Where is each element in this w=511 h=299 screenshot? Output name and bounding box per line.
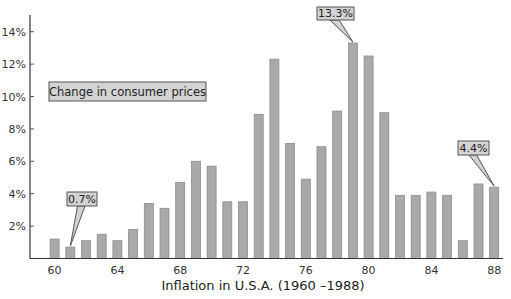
bar-1982 [396,195,405,258]
bar-1978 [333,111,342,258]
x-axis: 6064687276808488 [30,259,503,278]
bar-1986 [458,241,467,259]
x-tick-label: 68 [173,264,187,277]
bar-1965 [129,229,138,258]
bar-1964 [113,241,122,259]
bar-1988 [490,187,499,258]
callout-pointer [330,20,353,42]
bar-1967 [160,208,169,258]
x-axis-title: Inflation in U.S.A. (1960 –1988) [161,278,364,293]
x-tick-label: 76 [299,264,313,277]
bar-1975 [286,143,295,258]
bar-1969 [191,161,200,258]
bar-1968 [176,182,185,258]
legend-label: Change in consumer prices [49,85,206,99]
callout-pointer [469,155,494,186]
y-tick-label: 14% [2,26,26,39]
y-tick-label: 10% [2,91,26,104]
x-tick-label: 72 [236,264,250,277]
bar-1960 [50,239,59,258]
bar-1977 [317,147,326,259]
bar-1984 [427,192,436,258]
bar-1970 [207,166,216,258]
legend-box: Change in consumer prices [49,82,206,101]
x-tick-label: 84 [424,264,438,277]
annotation-1979: 13.3% [317,7,354,42]
bar-1961 [66,247,75,258]
bar-1980 [364,56,373,259]
callout-label: 0.7% [68,193,96,206]
bar-1972 [239,202,248,259]
y-tick-label: 4% [9,188,26,201]
callout-label: 4.4% [460,142,488,155]
bar-1983 [411,195,420,258]
x-tick-label: 88 [487,264,501,277]
bar-1987 [474,184,483,259]
y-tick-label: 6% [9,155,26,168]
bar-1979 [348,43,357,258]
bar-1985 [443,195,452,258]
bar-1966 [144,203,153,258]
x-tick-label: 64 [110,264,124,277]
bar-1976 [301,179,310,258]
bars [50,43,499,258]
callout-label: 13.3% [318,7,353,20]
inflation-bar-chart: 2%4%6%8%10%12%14% 6064687276808488 Chang… [0,0,511,299]
bar-1971 [223,202,232,259]
bar-1974 [270,59,279,258]
annotation-1961: 0.7% [67,192,97,246]
bar-1973 [254,114,263,258]
callout-pointer [70,206,85,246]
y-tick-label: 12% [2,58,26,71]
x-tick-label: 80 [362,264,376,277]
bar-1981 [380,113,389,259]
bar-1963 [97,234,106,258]
x-tick-label: 60 [48,264,62,277]
y-tick-label: 8% [9,123,26,136]
bar-1962 [82,241,91,259]
annotation-1988: 4.4% [458,141,494,186]
y-axis: 2%4%6%8%10%12%14% [2,15,34,259]
y-tick-label: 2% [9,220,26,233]
